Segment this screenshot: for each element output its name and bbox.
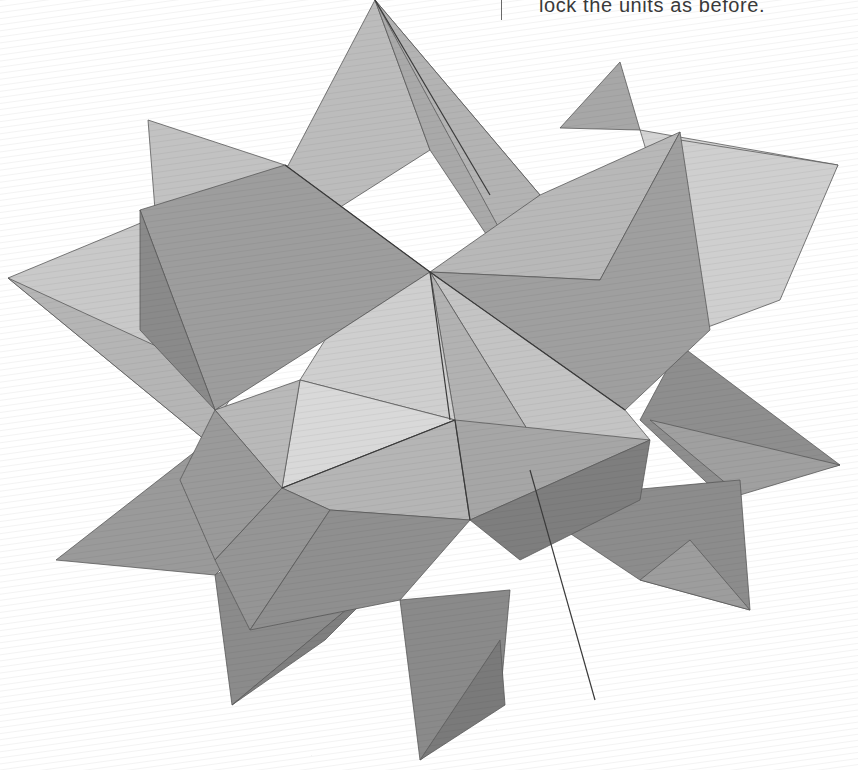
- paper-texture: [0, 0, 858, 770]
- origami-star-photo: [0, 0, 858, 770]
